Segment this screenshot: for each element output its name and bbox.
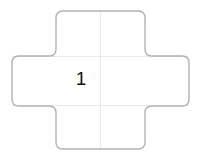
cross-shape-diagram <box>0 0 201 161</box>
center-panel-label: 1 <box>74 69 88 88</box>
grid-lines <box>12 11 189 149</box>
diagram-canvas: 1 <box>0 0 201 161</box>
